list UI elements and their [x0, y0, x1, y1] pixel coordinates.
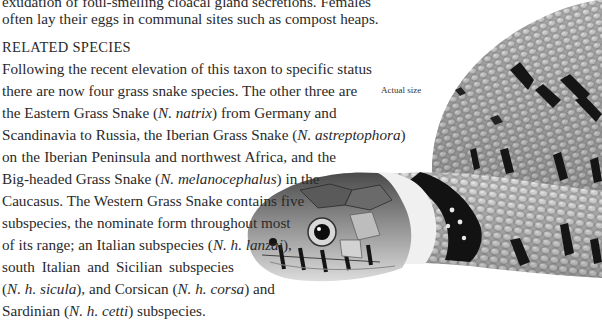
- species-name: N. astreptophora: [297, 126, 400, 143]
- species-name: N. melanocephalus: [160, 170, 276, 187]
- text-run: ) in the: [277, 170, 320, 187]
- text-run: ) and: [244, 280, 275, 297]
- species-name: N. h. lanzai: [213, 236, 283, 253]
- figure-caption: Actual size: [381, 84, 421, 96]
- paragraph-line: the Eastern Grass Snake (N. natrix) from…: [2, 102, 336, 124]
- text-run: on the Iberian Peninsula and northwest A…: [2, 148, 336, 165]
- text-run: Sardinian (: [2, 302, 69, 319]
- paragraph-line: subspecies, the nominate form throughout…: [2, 212, 242, 234]
- paragraph-line: of its range; an Italian subspecies (N. …: [2, 234, 232, 256]
- text-run: Big-headed Grass Snake (: [2, 170, 160, 187]
- paragraph-line: south Italian and Sicilian subspecies: [2, 256, 234, 278]
- paragraph-line: Caucasus. The Western Grass Snake contai…: [2, 190, 257, 212]
- species-name: N. h. cetti: [69, 302, 128, 319]
- text-run: Following the recent elevation of this t…: [2, 60, 372, 77]
- text-run: Scandinavia to Russia, the Iberian Grass…: [2, 126, 297, 143]
- text-run: ) from Germany and: [212, 104, 336, 121]
- paragraph-line: there are now four grass snake species. …: [2, 80, 336, 102]
- text-run: south Italian and Sicilian subspecies: [2, 258, 234, 275]
- paragraph-line: (N. h. sicula), and Corsican (N. h. cors…: [2, 278, 234, 300]
- intro-line-2: often lay their eggs in communal sites s…: [2, 8, 379, 30]
- text-run: of its range; an Italian subspecies (: [2, 236, 213, 253]
- text-run: there are now four grass snake species. …: [2, 82, 357, 99]
- paragraph-line: Big-headed Grass Snake (N. melanocephalu…: [2, 168, 277, 190]
- text-run: the Eastern Grass Snake (: [2, 104, 158, 121]
- species-name: N. h. sicula: [7, 280, 76, 297]
- text-run: ), and Corsican (: [76, 280, 177, 297]
- paragraph-line: Scandinavia to Russia, the Iberian Grass…: [2, 124, 336, 146]
- text-run: ),: [283, 236, 292, 253]
- text-run: ): [400, 126, 405, 143]
- text-run: ) subspecies.: [128, 302, 206, 319]
- section-heading: RELATED SPECIES: [2, 36, 131, 58]
- text-run: Caucasus. The Western Grass Snake contai…: [2, 192, 304, 209]
- paragraph-line: Sardinian (N. h. cetti) subspecies.: [2, 300, 206, 322]
- snake-upper-coil: [432, 0, 602, 200]
- species-name: N. h. corsa: [177, 280, 244, 297]
- paragraph-line: Following the recent elevation of this t…: [2, 58, 336, 80]
- text-run: subspecies, the nominate form throughout…: [2, 214, 291, 231]
- paragraph-line: on the Iberian Peninsula and northwest A…: [2, 146, 336, 168]
- species-name: N. natrix: [158, 104, 212, 121]
